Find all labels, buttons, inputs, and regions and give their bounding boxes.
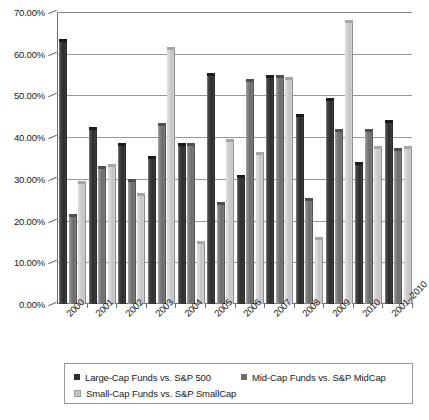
legend-swatch-icon [74,374,80,380]
bar-group [355,12,382,304]
x-axis-labels: 2000200120022003200420052006200720082009… [57,304,413,359]
legend-item-mid-cap: Mid-Cap Funds vs. S&P MidCap [241,372,386,383]
bar-front-face [246,82,254,304]
y-axis-tick-mark [48,302,57,306]
y-axis-tick-label: 60.00% [14,48,45,59]
y-axis-tick-label: 40.00% [14,132,45,143]
bar-front-face [394,151,402,304]
y-axis-tick-mark [48,135,57,139]
bar-front-face [266,78,274,304]
x-axis-tick-mark [116,304,117,308]
bar-front-face [385,123,393,304]
y-axis: 0.00%10.00%20.00%30.00%40.00%50.00%60.00… [0,0,57,316]
bar-front-face [148,159,156,304]
y-axis-tick-label: 70.00% [14,7,45,18]
bar-front-face [207,76,215,305]
legend-row: Large-Cap Funds vs. S&P 500 Mid-Cap Fund… [74,369,412,385]
bar [276,75,284,304]
bar-front-face [296,117,304,304]
bar-front-face [98,169,106,304]
y-axis-tick-label: 0.00% [19,299,45,310]
bar [404,146,412,305]
bar-group [385,12,412,304]
bar-front-face [59,42,67,304]
bar [69,214,77,304]
bar-group [326,12,353,304]
bar-front-face [355,165,363,304]
bar-front-face [108,167,116,304]
bar [207,73,215,305]
bar-front-face [256,155,264,304]
x-axis-tick-mark [175,304,176,308]
bar [158,123,166,304]
bar [59,39,67,304]
y-axis-tick-mark [48,218,57,222]
legend-label: Large-Cap Funds vs. S&P 500 [85,372,211,383]
plot-area [57,12,412,304]
bar [217,202,225,304]
bar-group [89,12,116,304]
bar [226,139,234,304]
x-axis-tick-mark [382,304,383,308]
bar-group [207,12,234,304]
bar-front-face [89,130,97,304]
bar-front-face [326,101,334,304]
bar [118,143,126,304]
bar-front-face [118,146,126,304]
bar-front-face [335,132,343,304]
bar [237,175,245,304]
y-axis-tick-label: 20.00% [14,215,45,226]
bar [285,77,293,304]
bar [296,114,304,304]
bar [78,181,86,304]
legend-label: Mid-Cap Funds vs. S&P MidCap [252,372,386,383]
bar [246,79,254,304]
legend-item-small-cap: Small-Cap Funds vs. S&P SmallCap [74,388,241,399]
bar [148,156,156,304]
bar-front-face [404,149,412,305]
bar-front-face [197,244,205,304]
legend-swatch-icon [74,390,81,397]
bar-front-face [187,146,195,304]
bar [315,237,323,304]
y-axis-tick-label: 50.00% [14,90,45,101]
bar-front-face [167,50,175,304]
bar [98,166,106,304]
y-axis-tick-mark [48,260,57,264]
bar [137,193,145,304]
x-axis-tick-mark [235,304,236,308]
legend-item-large-cap: Large-Cap Funds vs. S&P 500 [74,372,241,383]
bar-group [59,12,86,304]
bar-group [266,12,293,304]
bar [256,152,264,304]
legend-swatch-icon [241,374,247,380]
bar [326,98,334,304]
bar [385,120,393,304]
bar-group [296,12,323,304]
bar-front-face [345,23,353,304]
bar-front-face [237,178,245,304]
bar-front-face [217,205,225,304]
bar-front-face [365,132,373,304]
x-axis-tick-mark [264,304,265,308]
y-axis-tick-mark [48,52,57,56]
bar-group [237,12,264,304]
bar [365,129,373,304]
bar-group [118,12,145,304]
bar-front-face [374,149,382,305]
bar [335,129,343,304]
bar-group [178,12,205,304]
legend-row: Small-Cap Funds vs. S&P SmallCap [74,385,412,401]
bar-group [148,12,175,304]
bar [305,198,313,304]
bar-front-face [178,146,186,304]
x-axis-tick-mark [205,304,206,308]
y-axis-tick-mark [48,177,57,181]
x-axis-tick-mark [412,304,413,308]
x-axis-tick-mark [146,304,147,308]
bar-chart: 0.00%10.00%20.00%30.00%40.00%50.00%60.00… [0,0,429,420]
y-axis-tick-mark [48,93,57,97]
bar [187,143,195,304]
y-axis-tick-label: 30.00% [14,173,45,184]
y-axis-tick-mark [48,10,57,14]
